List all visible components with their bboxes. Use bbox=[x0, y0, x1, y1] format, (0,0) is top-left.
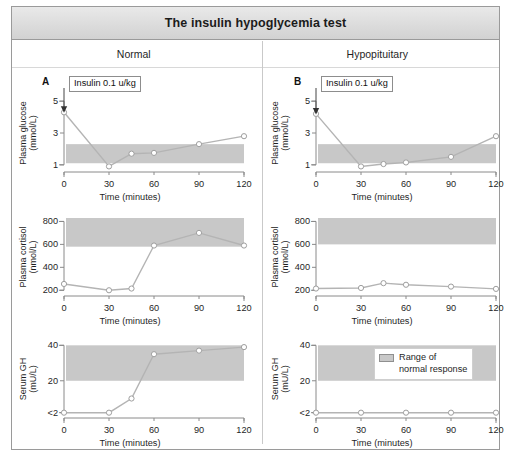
y-axis-spine-gh-normal bbox=[59, 345, 64, 412]
column-divider bbox=[262, 41, 263, 444]
data-point-glucose-hypopituitary-60 bbox=[403, 160, 408, 165]
data-point-glucose-hypopituitary-30 bbox=[358, 164, 363, 169]
data-point-glucose-normal-90 bbox=[196, 142, 201, 147]
data-point-cortisol-hypopituitary-120 bbox=[493, 286, 498, 291]
plot-area-gh-normal bbox=[12, 318, 248, 440]
chart-panel-glucose-hypopituitary: BPlasma glucose(mmol/L)1350306090120Time… bbox=[264, 72, 500, 194]
legend-swatch-normal-range bbox=[379, 354, 394, 362]
figure-root: The insulin hypoglycemia test Normal Hyp… bbox=[0, 0, 509, 456]
data-point-glucose-hypopituitary-120 bbox=[493, 134, 498, 139]
data-point-glucose-hypopituitary-45 bbox=[381, 161, 386, 166]
x-axis-spine-gh-normal bbox=[64, 418, 244, 423]
legend-label: Range ofnormal response bbox=[399, 352, 467, 375]
legend: Range ofnormal response bbox=[374, 348, 473, 380]
data-point-glucose-normal-120 bbox=[241, 134, 246, 139]
data-point-glucose-normal-30 bbox=[106, 164, 111, 169]
data-point-cortisol-normal-45 bbox=[129, 286, 134, 291]
data-point-gh-normal-30 bbox=[106, 410, 111, 415]
data-point-gh-hypopituitary-30 bbox=[358, 410, 363, 415]
chart-panel-gh-normal: Serum GH(mU/L)<220400306090120Time (minu… bbox=[12, 318, 248, 440]
data-point-gh-hypopituitary-0 bbox=[313, 410, 318, 415]
insulin-annotation-glucose-hypopituitary: Insulin 0.1 u/kg bbox=[321, 76, 393, 92]
data-point-gh-normal-0 bbox=[61, 410, 66, 415]
column-header-row: Normal Hypopituitary bbox=[12, 41, 499, 67]
normal-range-band-cortisol-hypopituitary bbox=[318, 218, 496, 244]
data-point-cortisol-hypopituitary-0 bbox=[313, 286, 318, 291]
x-axis-spine-glucose-hypopituitary bbox=[316, 172, 496, 177]
data-point-glucose-normal-60 bbox=[151, 150, 156, 155]
data-point-gh-hypopituitary-120 bbox=[493, 410, 498, 415]
column-header-hypopituitary: Hypopituitary bbox=[256, 41, 500, 67]
figure-title-bar: The insulin hypoglycemia test bbox=[11, 6, 500, 40]
header-divider bbox=[12, 67, 499, 68]
x-axis-spine-glucose-normal bbox=[64, 172, 244, 177]
data-point-cortisol-hypopituitary-45 bbox=[381, 281, 386, 286]
data-point-cortisol-normal-0 bbox=[61, 281, 66, 286]
y-axis-spine-gh-hypopituitary bbox=[311, 345, 316, 412]
data-point-cortisol-hypopituitary-90 bbox=[448, 284, 453, 289]
chart-panel-glucose-normal: APlasma glucose(mmol/L)1350306090120Time… bbox=[12, 72, 248, 194]
plot-area-cortisol-normal bbox=[12, 196, 248, 318]
data-point-gh-normal-60 bbox=[151, 352, 156, 357]
normal-range-band-gh-normal bbox=[66, 345, 244, 380]
chart-panel-cortisol-normal: Plasma cortisol(nmol/L)20040060080003060… bbox=[12, 196, 248, 318]
data-point-gh-normal-45 bbox=[129, 396, 134, 401]
chart-panel-cortisol-hypopituitary: Plasma cortisol(nmol/L)20040060080003060… bbox=[264, 196, 500, 318]
data-point-cortisol-normal-90 bbox=[196, 230, 201, 235]
data-point-gh-normal-120 bbox=[241, 344, 246, 349]
data-point-gh-hypopituitary-60 bbox=[403, 410, 408, 415]
plot-area-cortisol-hypopituitary bbox=[264, 196, 500, 318]
column-header-normal: Normal bbox=[12, 41, 256, 67]
data-point-gh-normal-90 bbox=[196, 348, 201, 353]
chart-panel-gh-hypopituitary: Serum GH(mU/L)<220400306090120Time (minu… bbox=[264, 318, 500, 440]
normal-range-band-cortisol-normal bbox=[66, 218, 244, 247]
insulin-annotation-glucose-normal: Insulin 0.1 u/kg bbox=[69, 76, 141, 92]
data-point-glucose-hypopituitary-90 bbox=[448, 154, 453, 159]
x-axis-spine-gh-hypopituitary bbox=[316, 418, 496, 423]
data-point-cortisol-hypopituitary-60 bbox=[403, 282, 408, 287]
data-point-cortisol-normal-120 bbox=[241, 243, 246, 248]
x-axis-spine-cortisol-hypopituitary bbox=[316, 296, 496, 301]
figure-title: The insulin hypoglycemia test bbox=[165, 16, 346, 30]
y-axis-spine-cortisol-normal bbox=[59, 221, 64, 290]
data-point-glucose-normal-45 bbox=[129, 151, 134, 156]
data-point-cortisol-normal-60 bbox=[151, 243, 156, 248]
data-point-gh-hypopituitary-90 bbox=[448, 410, 453, 415]
x-axis-spine-cortisol-normal bbox=[64, 296, 244, 301]
data-point-cortisol-normal-30 bbox=[106, 288, 111, 293]
data-point-cortisol-hypopituitary-30 bbox=[358, 285, 363, 290]
y-axis-spine-cortisol-hypopituitary bbox=[311, 221, 316, 290]
